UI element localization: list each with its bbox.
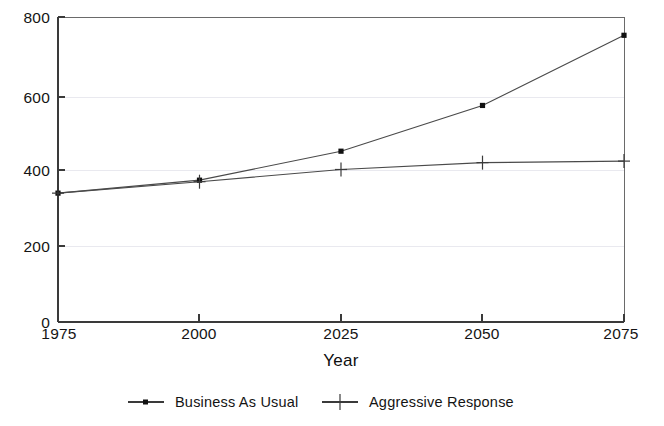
legend-item-business-as-usual[interactable]: Business As Usual <box>128 394 299 410</box>
legend-label-2: Aggressive Response <box>369 394 514 410</box>
y-tick-label-400: 400 <box>24 162 51 179</box>
series-markers-aggressive-response <box>52 154 630 200</box>
chart-legend: Business As Usual Aggressive Response <box>128 394 514 410</box>
legend-item-aggressive-response[interactable]: Aggressive Response <box>322 394 514 410</box>
y-tick-label-200: 200 <box>24 238 51 255</box>
x-tick-label-2075: 2075 <box>603 325 638 342</box>
legend-square-dot-icon <box>143 400 148 405</box>
x-tick-labels: 1975 2000 2025 2050 2075 <box>41 325 638 342</box>
legend-label-1: Business As Usual <box>175 394 299 410</box>
y-tick-label-800: 800 <box>24 9 51 26</box>
x-tick-label-2000: 2000 <box>181 325 216 342</box>
chart-figure: 800 600 400 200 0 1975 2000 2025 2050 20… <box>0 0 664 426</box>
data-point-marker-dot <box>480 103 485 108</box>
y-tick-label-600: 600 <box>24 89 51 106</box>
x-tick-label-2025: 2025 <box>323 325 358 342</box>
y-tick-marks <box>58 17 65 322</box>
data-point-marker-dot <box>338 149 343 154</box>
line-chart-canvas: 800 600 400 200 0 1975 2000 2025 2050 20… <box>0 0 664 426</box>
x-tick-label-2050: 2050 <box>464 325 499 342</box>
x-axis-title: Year <box>323 351 359 370</box>
y-tick-labels: 800 600 400 200 0 <box>24 9 51 331</box>
data-point-marker-dot <box>621 33 626 38</box>
x-tick-label-1975: 1975 <box>41 325 76 342</box>
x-tick-marks <box>58 314 624 322</box>
